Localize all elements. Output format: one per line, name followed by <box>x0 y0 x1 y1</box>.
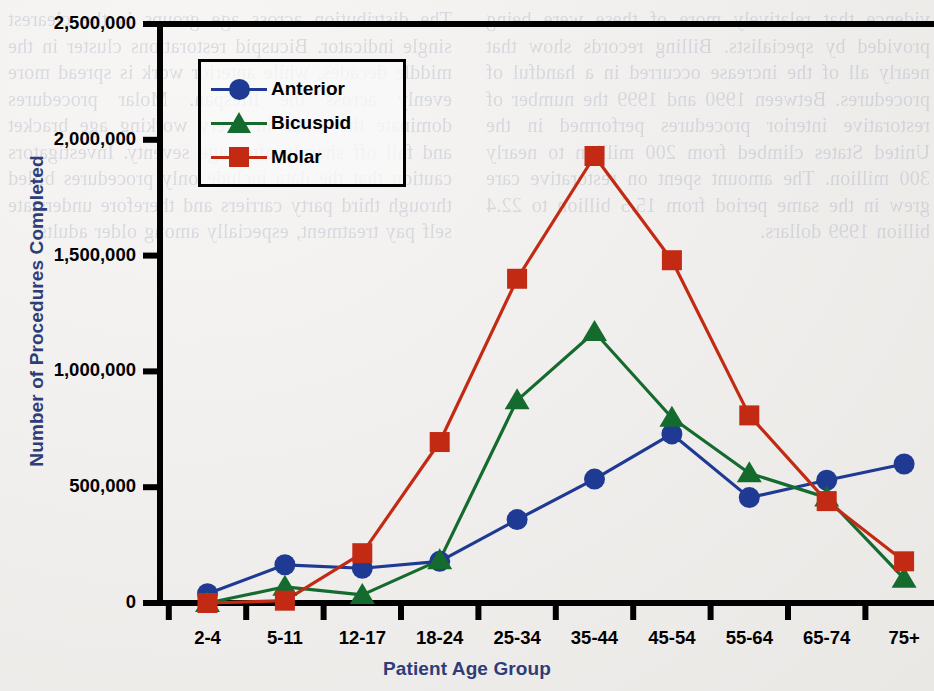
data-point-anterior-55-64 <box>739 487 760 508</box>
legend-label: Molar <box>271 146 322 168</box>
y-tick-label: 2,500,000 <box>0 12 136 34</box>
x-tick-label-75+: 75+ <box>854 627 934 649</box>
data-point-anterior-25-34 <box>507 509 528 530</box>
legend-label: Bicuspid <box>271 112 351 134</box>
data-point-molar-65-74 <box>817 491 837 511</box>
data-point-molar-5-11 <box>275 591 295 611</box>
data-point-molar-12-17 <box>352 543 372 563</box>
data-point-anterior-5-11 <box>274 554 295 575</box>
data-point-molar-25-34 <box>507 269 527 289</box>
legend-item-molar: Molar <box>211 140 391 174</box>
legend-marker-circle-icon <box>211 78 267 100</box>
data-point-molar-55-64 <box>739 405 759 425</box>
data-point-molar-35-44 <box>585 146 605 166</box>
y-tick-label: 500,000 <box>0 475 136 497</box>
y-tick-label: 2,000,000 <box>0 128 136 150</box>
data-point-bicuspid-55-64 <box>737 461 762 482</box>
y-tick-label: 1,500,000 <box>0 244 136 266</box>
legend-label: Anterior <box>271 78 345 100</box>
data-point-molar-2-4 <box>198 593 218 613</box>
data-point-molar-18-24 <box>430 432 450 452</box>
data-point-bicuspid-35-44 <box>582 320 607 341</box>
legend-marker-triangle-icon <box>211 112 267 134</box>
data-point-molar-75+ <box>894 551 914 571</box>
line-chart: Number of Procedures Completed Patient A… <box>0 0 934 691</box>
data-point-anterior-35-44 <box>584 469 605 490</box>
y-tick-label: 0 <box>0 591 136 613</box>
y-tick-label: 1,000,000 <box>0 359 136 381</box>
data-point-anterior-75+ <box>894 454 915 475</box>
legend-marker-square-icon <box>211 146 267 168</box>
data-point-molar-45-54 <box>662 250 682 270</box>
legend-item-bicuspid: Bicuspid <box>211 106 391 140</box>
chart-legend: AnteriorBicuspidMolar <box>198 59 406 187</box>
plot-area <box>0 0 934 691</box>
legend-item-anterior: Anterior <box>211 72 391 106</box>
